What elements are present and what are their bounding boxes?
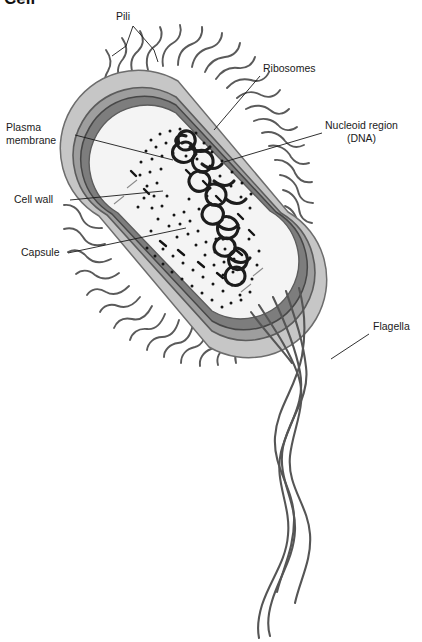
label-ribosomes: Ribosomes [263, 62, 316, 75]
label-plasma-membrane: Plasma membrane [6, 121, 56, 147]
bacterial-cell-figure: Cell [0, 0, 422, 642]
label-nucleoid-line2: (DNA) [325, 132, 398, 145]
label-plasma-membrane-line2: membrane [6, 134, 56, 147]
label-pili: Pili [116, 10, 130, 23]
label-capsule: Capsule [21, 246, 60, 259]
label-nucleoid-region: Nucleoid region (DNA) [325, 119, 398, 145]
label-flagella: Flagella [373, 320, 410, 333]
label-nucleoid-line1: Nucleoid region [325, 119, 398, 132]
label-plasma-membrane-line1: Plasma [6, 121, 56, 134]
label-cell-wall: Cell wall [14, 193, 53, 206]
cell-diagram [0, 0, 422, 642]
